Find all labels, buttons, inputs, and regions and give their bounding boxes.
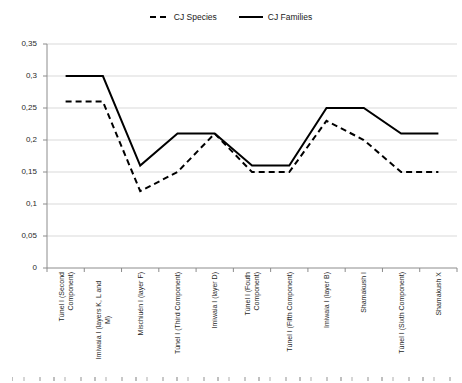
y-axis-tick-label: 0,05 [6,231,37,241]
plot-area [0,0,462,290]
x-axis-category-label: Mischiuén I (layer F) [136,272,145,368]
x-axis-category-label: Imiwaia I (layer B) [322,272,331,368]
x-axis-category-label: Shamakush I [359,272,368,368]
x-axis-category-label: Túnel I (Third Component) [173,272,182,368]
x-axis-category-label: Shamakush X [434,272,443,368]
x-axis-category-label: Túnel I (Second Component) [57,272,75,368]
y-axis-tick-label: 0,3 [6,71,37,81]
cropped-caption-text-fragments [12,377,452,381]
y-axis-tick-label: 0,15 [6,167,37,177]
y-axis-tick-label: 0,35 [6,39,37,49]
x-axis-category-label: Túnel I (Fouth Component) [243,272,261,368]
y-axis-tick-label: 0,1 [6,199,37,209]
y-axis-tick-label: 0 [6,263,37,273]
y-axis-tick-label: 0,25 [6,103,37,113]
x-axis-category-label: Túnel I (Fifth Component) [285,272,294,368]
series-line-cj-families [66,76,439,166]
x-axis-category-label: Túnel I (Sixth Component) [397,272,406,368]
x-axis-category-label: Imiwaia I (layer D) [210,272,219,368]
line-chart: CJ Species CJ Families 00,050,10,150,20,… [0,0,462,383]
x-axis-category-label: Imiwaia I (layers K, L and M) [94,272,112,368]
series-line-cj-species [66,102,439,192]
y-axis-tick-label: 0,2 [6,135,37,145]
